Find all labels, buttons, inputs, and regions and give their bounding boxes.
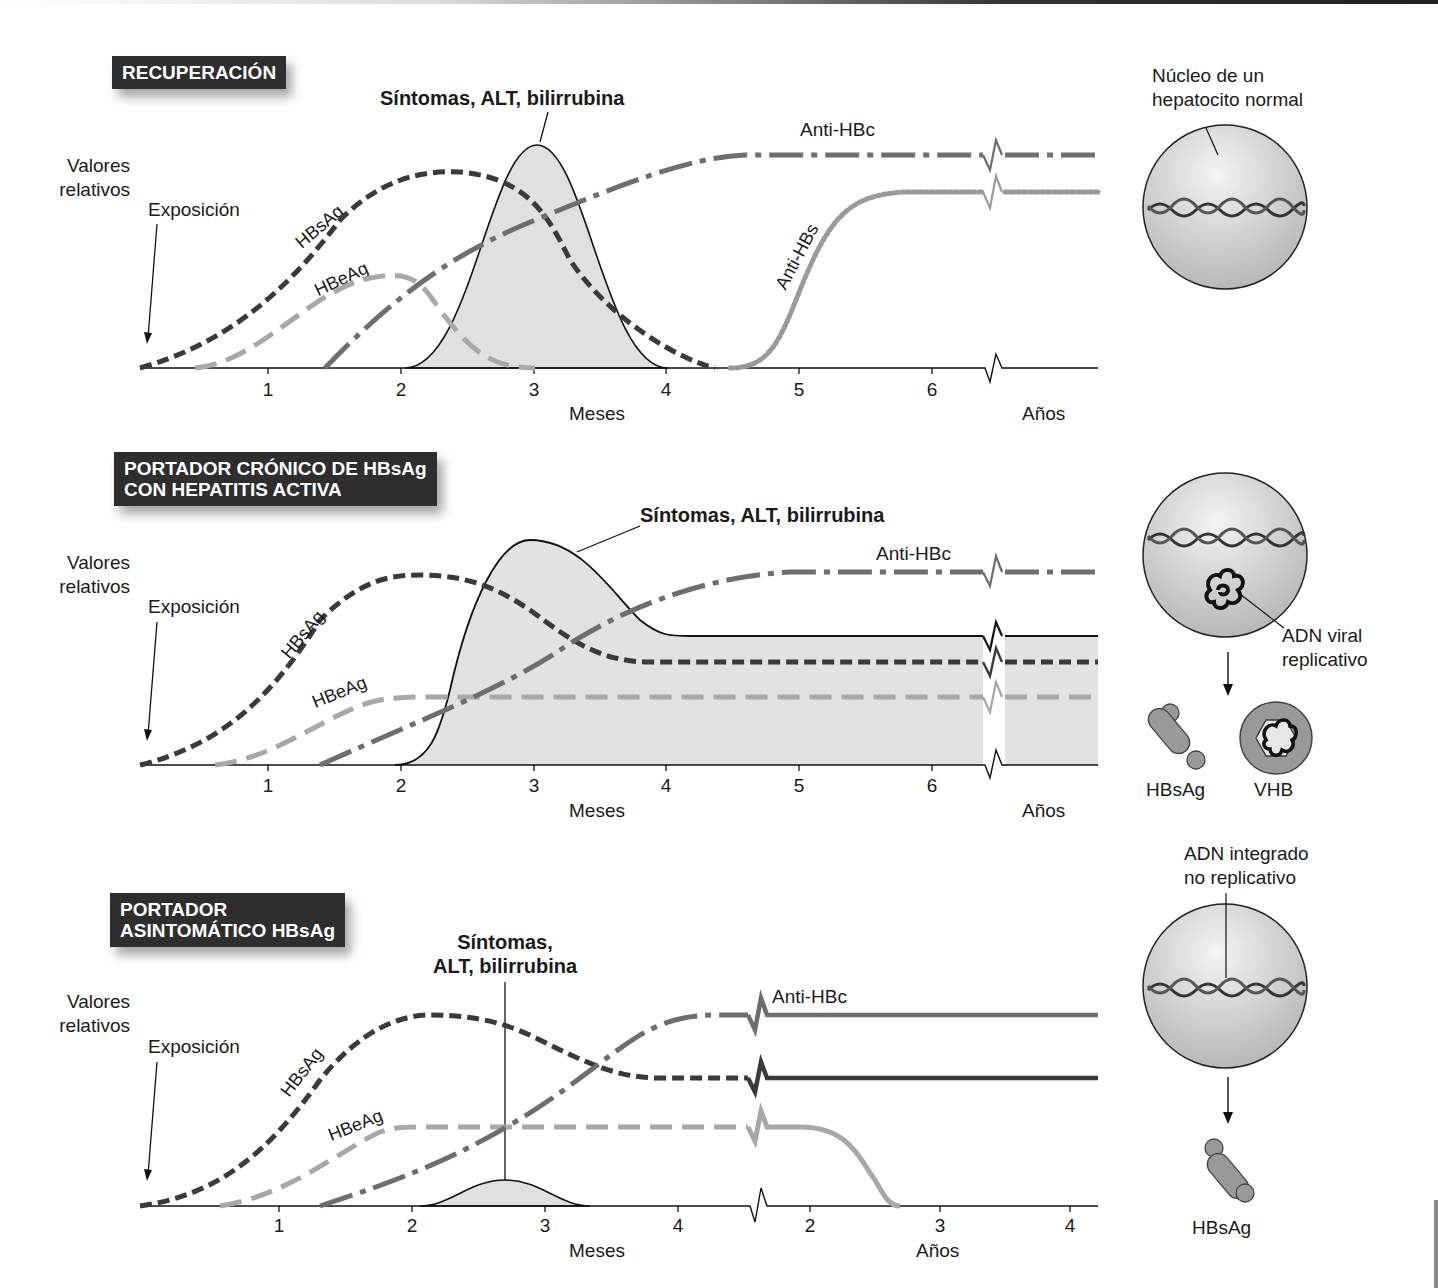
tick-label: 4 bbox=[656, 774, 676, 798]
year-tick-label: 3 bbox=[930, 1214, 950, 1238]
vhb-virion-icon bbox=[1240, 702, 1312, 774]
x-ticks bbox=[268, 765, 932, 771]
year-tick-label: 4 bbox=[1060, 1214, 1080, 1238]
viral-dna-caption: ADN viral replicativo bbox=[1282, 624, 1368, 672]
year-tick-label: 2 bbox=[800, 1214, 820, 1238]
caption-line: Núcleo de un bbox=[1152, 64, 1303, 88]
x-ticks bbox=[279, 1206, 1070, 1212]
tick-label: 2 bbox=[391, 774, 411, 798]
anti-hbc-line bbox=[325, 155, 1098, 368]
panel-title-asymptomatic: PORTADOR ASINTOMÁTICO HBsAg bbox=[110, 893, 345, 947]
recovery-chart bbox=[140, 112, 1098, 382]
panel-title-line: ASINTOMÁTICO HBsAg bbox=[120, 920, 335, 941]
y-axis-label: Valores relativos bbox=[46, 990, 130, 1038]
months-label: Meses bbox=[569, 1239, 625, 1263]
y-axis-label-line: Valores bbox=[46, 990, 130, 1014]
integrated-dna-caption: ADN integrado no replicativo bbox=[1184, 842, 1309, 890]
hbsag-particle-icon bbox=[1144, 704, 1205, 769]
panel-title-line: PORTADOR CRÓNICO DE HBsAg bbox=[124, 458, 427, 479]
vhb-product-label: VHB bbox=[1254, 778, 1293, 802]
integrated-nucleus-icon bbox=[1143, 893, 1307, 1203]
anti-hbc-line bbox=[320, 1015, 748, 1206]
exposure-label: Exposición bbox=[148, 595, 240, 619]
asymptomatic-chart bbox=[140, 982, 1098, 1222]
y-axis-label-line: relativos bbox=[46, 575, 130, 599]
hbsag-particle-icon bbox=[1203, 1139, 1254, 1203]
symptoms-curve bbox=[420, 1180, 590, 1206]
tick-label: 3 bbox=[535, 1214, 555, 1238]
anti-hbc-label: Anti-HBc bbox=[772, 985, 847, 1009]
caption-line: hepatocito normal bbox=[1152, 88, 1303, 112]
normal-nucleus-caption: Núcleo de un hepatocito normal bbox=[1152, 64, 1303, 112]
caption-line: replicativo bbox=[1282, 648, 1368, 672]
years-label: Años bbox=[1022, 799, 1065, 823]
caption-line: ADN integrado bbox=[1184, 842, 1309, 866]
symptoms-label-line: Síntomas, bbox=[405, 930, 605, 954]
y-axis-label: Valores relativos bbox=[46, 551, 130, 599]
hbsag-product-label: HBsAg bbox=[1192, 1216, 1251, 1240]
years-label: Años bbox=[916, 1239, 959, 1263]
tick-label: 5 bbox=[789, 774, 809, 798]
exposure-label: Exposición bbox=[148, 1035, 240, 1059]
y-axis-label-line: Valores bbox=[46, 551, 130, 575]
page-edge-tab bbox=[1434, 1200, 1438, 1288]
normal-nucleus-icon bbox=[1143, 125, 1307, 289]
panel-title-chronic: PORTADOR CRÓNICO DE HBsAg CON HEPATITIS … bbox=[114, 452, 437, 506]
tick-label: 6 bbox=[922, 774, 942, 798]
tick-label: 4 bbox=[668, 1214, 688, 1238]
symptoms-label-line: ALT, bilirrubina bbox=[405, 954, 605, 978]
caption-line: ADN viral bbox=[1282, 624, 1368, 648]
panel-title-line: PORTADOR bbox=[120, 899, 335, 920]
symptoms-label: Síntomas, ALT, bilirrubina bbox=[405, 930, 605, 978]
hbsag-product-label: HBsAg bbox=[1146, 778, 1205, 802]
anti-hbs-line bbox=[730, 192, 1098, 368]
months-label: Meses bbox=[569, 799, 625, 823]
symptoms-curve bbox=[405, 145, 668, 368]
symptoms-label: Síntomas, ALT, bilirrubina bbox=[640, 503, 884, 527]
tick-label: 1 bbox=[269, 1214, 289, 1238]
tick-label: 1 bbox=[258, 774, 278, 798]
y-axis-label-line: relativos bbox=[46, 1014, 130, 1038]
tick-label: 3 bbox=[524, 774, 544, 798]
anti-hbc-label: Anti-HBc bbox=[876, 542, 951, 566]
tick-label: 2 bbox=[402, 1214, 422, 1238]
x-ticks bbox=[268, 368, 932, 374]
caption-line: no replicativo bbox=[1184, 866, 1309, 890]
chart-svg bbox=[0, 0, 1438, 1288]
panel-title-line: CON HEPATITIS ACTIVA bbox=[124, 479, 427, 500]
